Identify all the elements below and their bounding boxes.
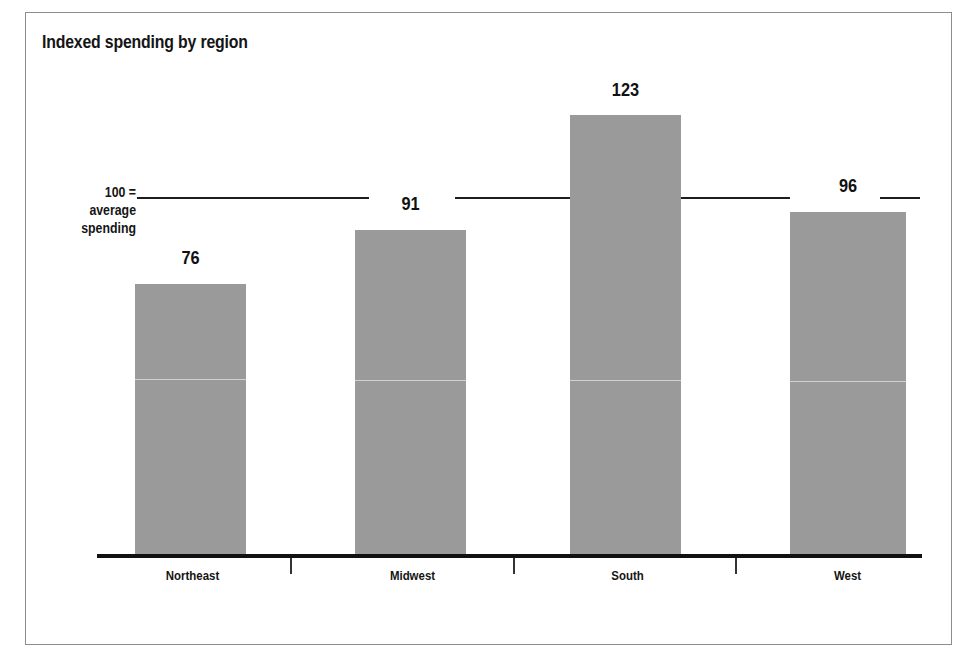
bar-value-northeast: 76 [143, 247, 238, 269]
reference-line-segment-1 [137, 197, 369, 199]
bar-value-midwest: 91 [363, 193, 458, 215]
bar-northeast [135, 284, 246, 556]
bar-midwest [355, 230, 466, 556]
bar-south [570, 115, 681, 556]
reference-line-label: 100 = average spending [30, 183, 136, 237]
bar-west [790, 212, 906, 556]
category-label-south: South [573, 568, 683, 583]
reference-line-segment-4 [680, 197, 790, 199]
plot-area: 100 = average spending 76 91 123 96 Nort… [0, 0, 965, 664]
axis-tick-separator-3 [735, 558, 737, 574]
category-label-northeast: Northeast [138, 568, 248, 583]
reference-line-segment-2 [455, 197, 570, 199]
axis-tick-separator-1 [290, 558, 292, 574]
reference-line-segment-5 [880, 197, 920, 199]
category-label-midwest: Midwest [358, 568, 468, 583]
reference-label-line-3: spending [30, 219, 136, 237]
bar-value-west: 96 [798, 175, 898, 197]
axis-tick-separator-2 [513, 558, 515, 574]
reference-label-line-1: 100 = [30, 183, 136, 201]
reference-label-line-2: average [30, 201, 136, 219]
bar-value-south: 123 [578, 79, 673, 101]
category-label-west: West [793, 568, 903, 583]
x-axis-line [97, 554, 922, 558]
chart-figure: Indexed spending by region 100 = average… [0, 0, 965, 664]
